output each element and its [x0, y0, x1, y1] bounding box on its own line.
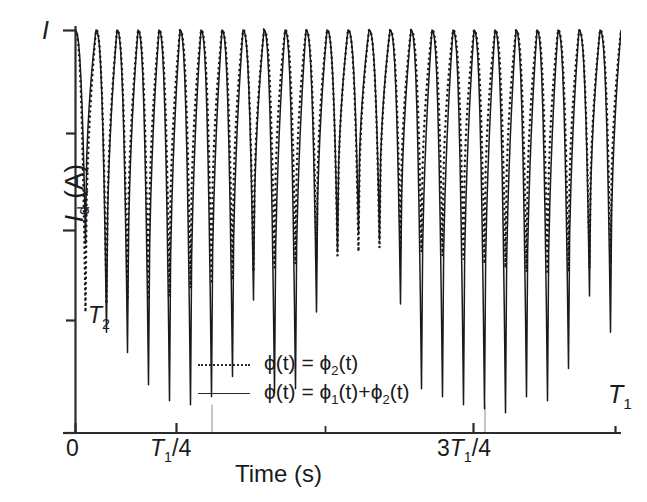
- guide-lines: [212, 405, 485, 433]
- legend-entry-phi1-phi2: ϕ(t) = ϕ1(t)+ϕ2(t): [196, 379, 456, 408]
- x-tick-quarter-subscript: 1: [164, 449, 172, 465]
- x-axis-title: Time (s): [235, 462, 322, 486]
- legend-sum-subscript-1: 1: [331, 392, 338, 407]
- legend-phi2-lhs: ϕ(t) =: [264, 351, 320, 374]
- y-tick-label-t2: T2: [88, 304, 110, 331]
- x-tick-label-threequarter: 3T1/4: [437, 437, 491, 464]
- x-tick-threequarter-subscript: 1: [464, 449, 472, 465]
- x-tick-quarter-symbol: T: [150, 435, 164, 461]
- legend-sum-tail-1: (t)+: [339, 380, 371, 403]
- legend-sum-tail-2: (t): [390, 380, 410, 403]
- x-end-label-t1: T1: [608, 382, 632, 412]
- y-axis-title-subscript: d: [74, 206, 92, 215]
- x-end-label-subscript: 1: [623, 395, 632, 412]
- x-tick-threequarter-suffix: /4: [472, 435, 491, 461]
- x-tick-label-quarter: T1/4: [150, 437, 191, 464]
- legend-swatch-solid-line: [196, 388, 252, 400]
- legend-sum-lhs: ϕ(t) =: [264, 380, 320, 403]
- y-tick-label-symbol: T: [88, 302, 102, 328]
- oscillation-chart: [0, 0, 647, 502]
- x-end-label-symbol: T: [608, 380, 623, 408]
- y-axis-title-symbol: I: [59, 215, 89, 222]
- y-axis-title: Id (A): [61, 113, 91, 273]
- legend-phi2-tail: (t): [339, 351, 359, 374]
- peak-current-label: I: [42, 18, 49, 43]
- legend-sum-symbol-1: ϕ: [320, 380, 332, 403]
- x-tick-threequarter-symbol: T: [450, 435, 464, 461]
- chart-legend: ϕ(t) = ϕ2(t) ϕ(t) = ϕ1(t)+ϕ2(t): [196, 350, 456, 408]
- legend-label-phi2: ϕ(t) = ϕ2(t): [264, 351, 358, 378]
- x-tick-threequarter-prefix: 3: [437, 435, 450, 461]
- y-axis-title-unit: (A): [59, 164, 89, 199]
- legend-sum-symbol-2: ϕ: [371, 380, 383, 403]
- legend-label-phi1-phi2: ϕ(t) = ϕ1(t)+ϕ2(t): [264, 380, 409, 407]
- x-tick-label-zero: 0: [66, 437, 79, 460]
- x-tick-quarter-suffix: /4: [172, 435, 191, 461]
- legend-phi2-symbol: ϕ: [320, 351, 332, 374]
- legend-phi2-subscript: 2: [331, 363, 338, 378]
- figure-panel: I Id (A) T2 0 T1/4 3T1/4 T1 Time (s) ϕ(t…: [0, 0, 647, 502]
- y-tick-label-subscript: 2: [102, 316, 110, 332]
- legend-entry-phi2: ϕ(t) = ϕ2(t): [196, 350, 456, 379]
- legend-swatch-dotted-line: [196, 359, 252, 371]
- legend-sum-subscript-2: 2: [382, 392, 389, 407]
